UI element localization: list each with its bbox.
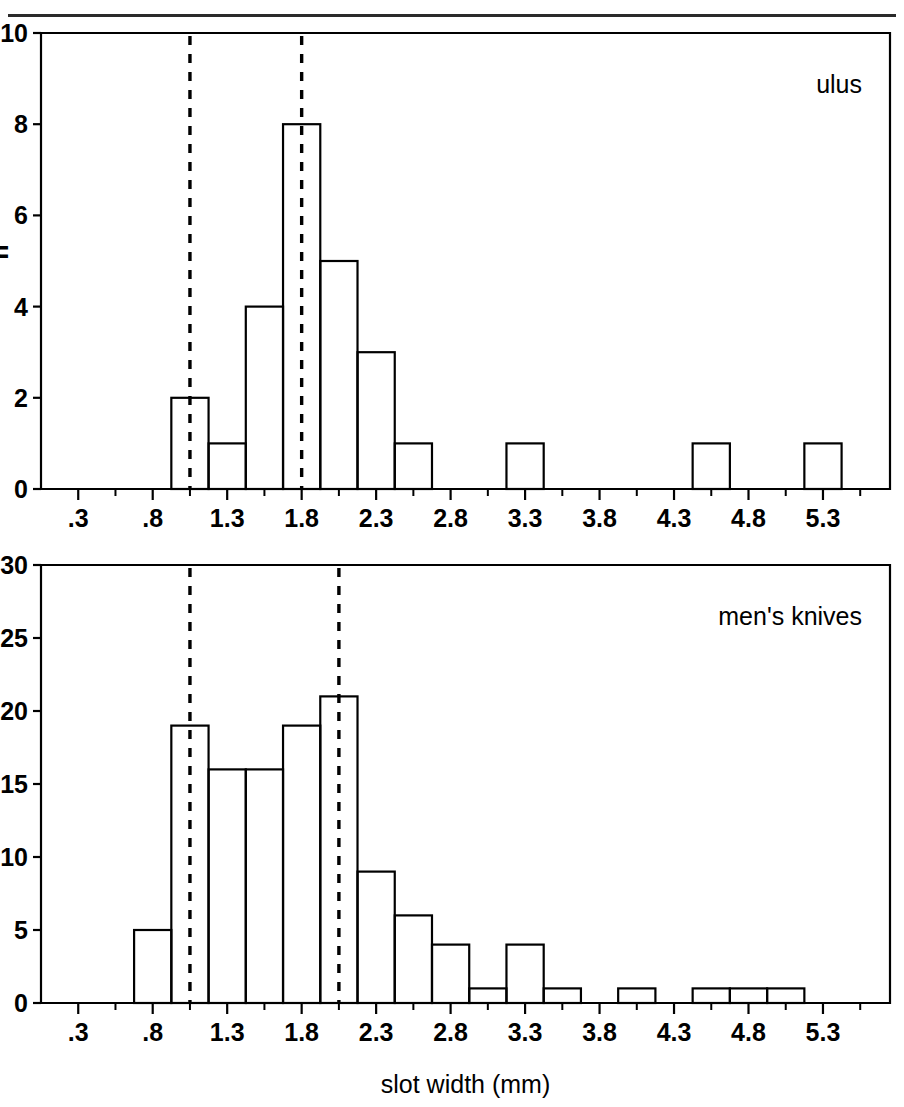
panel-top: 0246810.3.81.31.82.32.83.33.84.34.85.3ul… [0,19,890,532]
x-tick-label: 2.8 [433,1018,468,1046]
y-tick-label: 15 [0,770,28,798]
histogram-bar [283,726,320,1003]
histogram-bar [134,930,171,1003]
histogram-bar [767,988,804,1003]
histogram-bar [209,443,246,489]
histogram-bar [469,988,506,1003]
plot-frame [41,565,890,1003]
x-axis-title: slot width (mm) [381,1070,550,1098]
x-tick-label: 5.3 [806,504,841,532]
histogram-bar [320,696,357,1003]
y-axis-label: n [0,244,13,259]
histogram-bar [693,443,730,489]
y-tick-label: 10 [0,19,28,47]
histogram-bar [804,443,841,489]
x-tick-label: .3 [68,1018,89,1046]
panel-title-top: ulus [816,70,862,98]
histogram-bar [544,988,581,1003]
histogram-bar [395,443,432,489]
figure-container: 0246810.3.81.31.82.32.83.33.84.34.85.3ul… [0,0,904,1107]
x-tick-label: .8 [142,504,163,532]
x-tick-label: .8 [142,1018,163,1046]
y-tick-label: 30 [0,551,28,579]
histogram-bar [209,769,246,1003]
y-tick-label: 5 [14,916,28,944]
histogram-bar [320,261,357,489]
x-tick-label: 1.3 [210,504,245,532]
histogram-bar [358,872,395,1003]
y-tick-label: 0 [14,989,28,1017]
x-tick-label: 4.8 [731,1018,766,1046]
histogram-figure: 0246810.3.81.31.82.32.83.33.84.34.85.3ul… [0,0,904,1107]
top-horizontal-rule [8,14,896,17]
x-tick-label: 4.3 [657,1018,692,1046]
x-tick-label: 4.8 [731,504,766,532]
panel-bottom: 051015202530.3.81.31.82.32.83.33.84.34.8… [0,551,890,1046]
x-tick-label: 1.8 [284,504,319,532]
y-tick-label: 20 [0,697,28,725]
x-tick-label: 2.3 [359,504,394,532]
x-tick-label: 3.3 [508,504,543,532]
histogram-bar [246,307,283,489]
histogram-bars [134,696,804,1003]
x-tick-label: 2.3 [359,1018,394,1046]
x-tick-label: 2.8 [433,504,468,532]
y-tick-label: 2 [14,384,28,412]
y-tick-label: 10 [0,843,28,871]
histogram-bar [730,988,767,1003]
y-tick-label: 25 [0,624,28,652]
plot-frame [41,33,890,489]
y-tick-label: 0 [14,475,28,503]
histogram-bar [432,945,469,1003]
x-tick-label: 3.3 [508,1018,543,1046]
y-tick-label: 6 [14,201,28,229]
panel-title-bottom: men's knives [718,602,862,630]
x-tick-label: .3 [68,504,89,532]
x-tick-label: 1.8 [284,1018,319,1046]
histogram-bar [506,945,543,1003]
histogram-bar [618,988,655,1003]
x-tick-label: 3.8 [582,504,617,532]
histogram-bar [358,352,395,489]
histogram-bar [395,915,432,1003]
x-tick-label: 1.3 [210,1018,245,1046]
x-tick-label: 3.8 [582,1018,617,1046]
histogram-bar [506,443,543,489]
histogram-bars [171,124,841,489]
histogram-bar [246,769,283,1003]
x-tick-label: 4.3 [657,504,692,532]
y-tick-label: 4 [14,293,28,321]
histogram-bar [693,988,730,1003]
y-tick-label: 8 [14,110,28,138]
x-tick-label: 5.3 [806,1018,841,1046]
